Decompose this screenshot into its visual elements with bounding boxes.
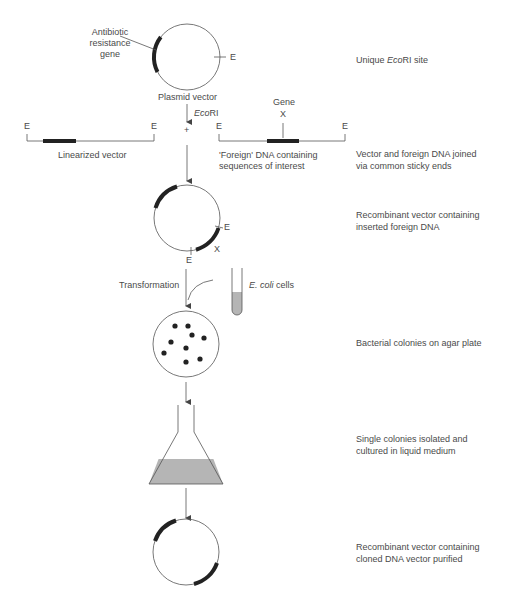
resistance-gene-block [154, 37, 161, 72]
step-recombinant: Recombinant vector containing inserted f… [356, 209, 480, 233]
step-line-1: Recombinant vector containing [356, 541, 480, 553]
step-line-1: Vector and foreign DNA joined [356, 148, 477, 160]
step-line-2: cultured in liquid medium [356, 445, 468, 457]
resistance-gene-label: Antibiotic resistance gene [78, 27, 142, 60]
step-line-1: Unique EcoRI site [356, 54, 428, 66]
foreign-dna [219, 123, 345, 141]
ecoli-cells-label: E. coli cells [249, 280, 294, 291]
petri-dish [153, 311, 219, 377]
plasmid-circle [154, 24, 220, 90]
cloning-diagram [0, 0, 512, 601]
culture-flask [149, 405, 223, 484]
agar-plate [153, 311, 219, 377]
colony-dot [185, 323, 190, 328]
test-tube-liquid [232, 292, 242, 315]
colony-dot [161, 350, 166, 355]
enzyme-italic: Eco [194, 108, 210, 118]
cells-merge-curve [188, 280, 213, 300]
recombinant-vector [154, 185, 223, 255]
linearized-vector [27, 134, 154, 141]
recombinant-x-label: X [214, 244, 220, 255]
step-line-1: Recombinant vector containing [356, 209, 480, 221]
colony-dot [172, 323, 177, 328]
gene-label-line-2: resistance [78, 38, 142, 49]
plasmid-name-label: Plasmid vector [158, 92, 217, 103]
foreign-left-end-label: E [216, 121, 222, 132]
foreign-dna-label-line-1: 'Foreign' DNA containing [219, 150, 318, 161]
step-text: Unique [356, 55, 387, 65]
recombinant-resistance-gene [156, 187, 178, 209]
colony-dot [183, 359, 188, 364]
step-line-2: via common sticky ends [356, 160, 477, 172]
ecoli-rest: cells [274, 280, 295, 290]
step-text: RI site [403, 55, 429, 65]
ecoli-italic: E. coli [249, 280, 274, 290]
step-unique-site: Unique EcoRI site [356, 54, 428, 66]
step-join: Vector and foreign DNA joined via common… [356, 148, 477, 172]
step-line-1: Bacterial colonies on agar plate [356, 337, 482, 349]
step-line-1: Single colonies isolated and [356, 433, 468, 445]
enzyme-rest: RI [210, 108, 219, 118]
colony-dot [183, 345, 188, 350]
gene-label-line-3: gene [78, 49, 142, 60]
transformation-label: Transformation [119, 280, 179, 291]
colony-dot [201, 335, 206, 340]
recombinant-site-label-bottom: E [186, 255, 192, 266]
foreign-dna-label-line-2: sequences of interest [219, 161, 318, 172]
flask-liquid [149, 459, 223, 484]
purified-vector [153, 519, 219, 585]
foreign-right-end-label: E [342, 121, 348, 132]
recombinant-site-label-right: E [224, 222, 230, 233]
colony-dot [168, 339, 173, 344]
linearized-right-end-label: E [151, 121, 157, 132]
gene-x-label: X [280, 109, 286, 120]
gene-label: Gene [273, 97, 295, 108]
test-tube [232, 268, 242, 315]
colony-dot [189, 332, 194, 337]
step-line-2: inserted foreign DNA [356, 221, 480, 233]
gene-label-line-1: Antibiotic [78, 27, 142, 38]
linearized-vector-label: Linearized vector [58, 150, 127, 161]
step-colonies: Bacterial colonies on agar plate [356, 337, 482, 349]
colonies [161, 323, 206, 364]
ecori-enzyme-label: EcoRI [194, 108, 219, 119]
colony-dot [197, 356, 202, 361]
purified-insert-gene [194, 563, 217, 584]
step-purified: Recombinant vector containing cloned DNA… [356, 541, 480, 565]
step-italic: Eco [387, 55, 403, 65]
linearized-left-end-label: E [24, 121, 30, 132]
plasmid-site-label: E [230, 52, 236, 63]
purified-resistance-gene [155, 521, 176, 542]
step-line-2: cloned DNA vector purified [356, 553, 480, 565]
foreign-dna-label: 'Foreign' DNA containing sequences of in… [219, 150, 318, 172]
step-culture: Single colonies isolated and cultured in… [356, 433, 468, 457]
plus-sign: + [184, 125, 189, 136]
